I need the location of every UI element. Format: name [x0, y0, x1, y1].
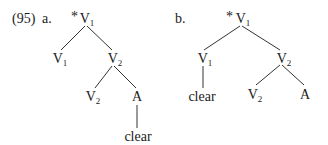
node-sub: 2: [287, 58, 292, 68]
node-cat: V: [53, 51, 63, 66]
node-cat: V: [248, 87, 258, 102]
tree-a-right-left-node: V2: [86, 90, 101, 108]
tree-a-right-node: V2: [108, 52, 123, 70]
node-cat: V: [277, 51, 287, 66]
node-sub: 1: [246, 18, 251, 28]
tree-a-leaf: clear: [124, 130, 151, 144]
branch-b-root-left: [204, 26, 240, 50]
node-sub: 2: [258, 94, 263, 104]
tree-b-root-star: *: [226, 10, 233, 24]
node-sub: 2: [96, 96, 101, 106]
tree-b-right-node: V2: [277, 52, 292, 70]
node-cat: V: [236, 11, 246, 26]
node-sub: 1: [90, 18, 95, 28]
node-sub: 2: [118, 58, 123, 68]
tree-b-right-right-node: A: [300, 88, 310, 102]
tree-a-root-node: V1: [80, 12, 95, 30]
tree-a-left-node: V1: [53, 52, 68, 70]
tree-b-right-left-node: V2: [248, 88, 263, 106]
tree-b-left-leaf: clear: [188, 90, 215, 104]
tree-b-root-node: V1: [236, 12, 251, 30]
node-cat: V: [108, 51, 118, 66]
tree-b-left-node: V1: [198, 52, 213, 70]
subexample-b-label: b.: [175, 12, 186, 26]
node-cat: V: [86, 89, 96, 104]
subexample-a-label: a.: [42, 12, 52, 26]
node-sub: 1: [208, 58, 213, 68]
node-sub: 1: [63, 58, 68, 68]
node-cat: V: [198, 51, 208, 66]
example-number: (95): [12, 12, 35, 26]
node-cat: V: [80, 11, 90, 26]
tree-a-right-right-node: A: [132, 90, 142, 104]
tree-a-root-star: *: [71, 10, 78, 24]
